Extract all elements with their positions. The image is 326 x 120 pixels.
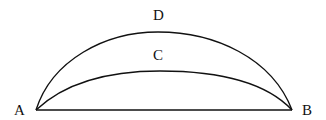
label-c: C xyxy=(153,47,163,63)
label-a: A xyxy=(14,102,25,118)
label-d: D xyxy=(153,7,164,23)
arc-diagram: A B C D xyxy=(0,0,326,120)
label-b: B xyxy=(302,102,312,118)
arc-acb xyxy=(36,71,292,110)
